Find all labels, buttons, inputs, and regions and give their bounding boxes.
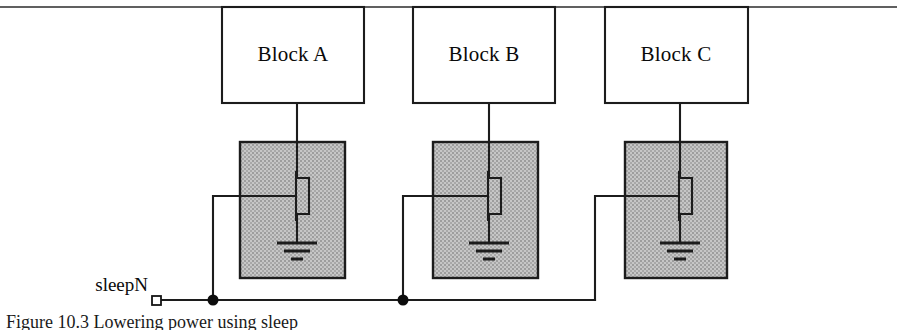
figure-caption-svg: Figure 10.3 Lowering power using sleep [0,312,897,330]
figure-caption: Figure 10.3 Lowering power using sleep [6,312,298,330]
sleep-cell-c [595,103,727,300]
sleep-cell-a [213,103,345,300]
sleepn-label: sleepN [95,274,148,295]
junction-dot-a [208,295,219,306]
sleepn-port-marker[interactable] [152,296,161,305]
circuit-schematic: Block A Block B Block C [0,0,897,330]
block-group-c: Block C [605,7,748,103]
sleep-cell-b [403,103,538,300]
junction-dot-b [398,295,409,306]
block-group-a: Block A [222,7,364,103]
block-group-b: Block B [413,7,555,103]
figure-caption-clip: Figure 10.3 Lowering power using sleep [0,312,897,330]
block-label-a: Block A [258,42,329,66]
block-label-c: Block C [641,42,712,66]
block-label-b: Block B [449,42,520,66]
figure-container: Block A Block B Block C [0,0,897,330]
